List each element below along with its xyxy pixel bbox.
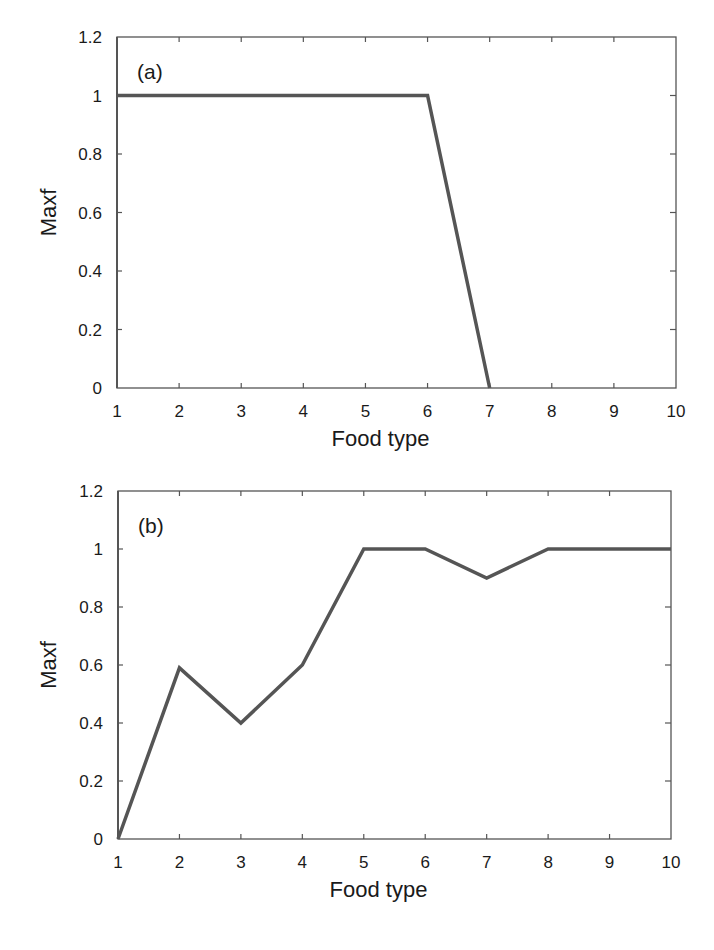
figure: 1234567891000.20.40.60.811.2(a)Food type…: [0, 0, 714, 950]
x-tick-label: 1: [113, 853, 122, 872]
y-axis-title: Maxf: [36, 188, 61, 237]
x-tick-label: 6: [420, 853, 429, 872]
panel-label: (b): [138, 514, 164, 537]
y-tick-label: 0.4: [79, 714, 103, 733]
x-tick-label: 5: [361, 402, 370, 421]
x-tick-label: 7: [485, 402, 494, 421]
y-tick-label: 0.2: [78, 321, 102, 340]
y-tick-label: 0.8: [79, 598, 103, 617]
y-tick-label: 0.6: [79, 656, 103, 675]
y-tick-label: 1.2: [78, 28, 102, 47]
x-tick-label: 9: [605, 853, 614, 872]
y-tick-label: 0.6: [78, 204, 102, 223]
series-line-maxf: [118, 549, 671, 839]
x-tick-label: 10: [662, 853, 681, 872]
x-tick-label: 9: [609, 402, 618, 421]
x-tick-label: 2: [174, 402, 183, 421]
x-axis-title: Food type: [332, 426, 430, 451]
x-tick-label: 8: [547, 402, 556, 421]
plot-frame: [117, 37, 676, 388]
x-tick-label: 4: [298, 853, 307, 872]
x-tick-label: 2: [175, 853, 184, 872]
y-tick-label: 0: [93, 379, 102, 398]
x-axis-title: Food type: [330, 877, 428, 902]
series-line-maxf: [117, 96, 490, 389]
y-tick-label: 1: [94, 540, 103, 559]
plot-frame: [118, 491, 671, 839]
x-tick-label: 7: [482, 853, 491, 872]
x-tick-label: 5: [359, 853, 368, 872]
x-tick-label: 3: [236, 402, 245, 421]
x-tick-label: 3: [236, 853, 245, 872]
x-tick-label: 8: [543, 853, 552, 872]
x-tick-label: 6: [423, 402, 432, 421]
chart-panel-a: 1234567891000.20.40.60.811.2(a)Food type…: [36, 28, 685, 451]
y-tick-label: 0.8: [78, 145, 102, 164]
y-tick-label: 0.2: [79, 772, 103, 791]
x-tick-label: 10: [667, 402, 686, 421]
y-tick-label: 0.4: [78, 262, 102, 281]
y-tick-label: 1: [93, 87, 102, 106]
y-tick-label: 0: [94, 830, 103, 849]
x-tick-label: 1: [112, 402, 121, 421]
y-tick-label: 1.2: [79, 482, 103, 501]
x-tick-label: 4: [299, 402, 308, 421]
chart-panel-b: 1234567891000.20.40.60.811.2(b)Food type…: [36, 482, 680, 902]
panel-label: (a): [137, 60, 163, 83]
y-axis-title: Maxf: [36, 640, 61, 689]
